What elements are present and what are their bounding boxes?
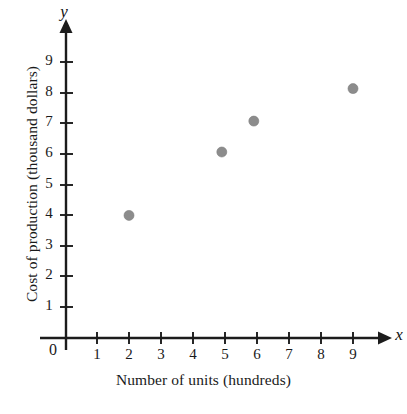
- plot-canvas: 1 2 3 4 5 6 7 8 9 1 2 3 4 5 6: [0, 0, 407, 414]
- y-tick-label: 9: [45, 52, 53, 68]
- data-point: [217, 147, 227, 157]
- y-tick-label: 1: [45, 297, 53, 313]
- y-tick-label: 3: [45, 236, 53, 252]
- x-tick-label: 2: [125, 346, 133, 362]
- origin-label: 0: [49, 341, 57, 358]
- x-tick-label: 3: [157, 346, 165, 362]
- y-axis-symbol: y: [58, 2, 68, 21]
- y-axis-arrowhead: [60, 19, 73, 33]
- y-tick-label: 2: [45, 266, 53, 282]
- axes-group: [40, 19, 392, 350]
- y-axis-title: Cost of production (thousand dollars): [23, 34, 41, 334]
- data-points-group: [124, 84, 358, 221]
- x-tick-label: 5: [221, 346, 229, 362]
- x-tick-label: 7: [285, 346, 293, 362]
- x-tick-label: 6: [253, 346, 261, 362]
- x-tick-label: 9: [349, 346, 357, 362]
- scatter-plot-figure: 1 2 3 4 5 6 7 8 9 1 2 3 4 5 6: [0, 0, 407, 414]
- x-tick-label: 4: [189, 346, 197, 362]
- x-axis-symbol: x: [394, 325, 403, 344]
- x-tick-label: 8: [317, 346, 325, 362]
- data-point: [124, 210, 134, 220]
- y-tick-label: 6: [45, 144, 53, 160]
- y-tick-labels-group: 1 2 3 4 5 6 7 8 9: [45, 52, 53, 313]
- x-axis-title: Number of units (hundreds): [0, 371, 407, 389]
- y-tick-label: 4: [45, 205, 53, 221]
- x-tick-labels-group: 1 2 3 4 5 6 7 8 9: [93, 346, 357, 362]
- x-tick-label: 1: [93, 346, 101, 362]
- y-tick-label: 8: [45, 83, 53, 99]
- x-axis-arrowhead: [378, 332, 392, 345]
- y-tick-label: 7: [45, 113, 53, 129]
- data-point: [348, 84, 358, 94]
- data-point: [249, 116, 259, 126]
- y-tick-label: 5: [45, 175, 53, 191]
